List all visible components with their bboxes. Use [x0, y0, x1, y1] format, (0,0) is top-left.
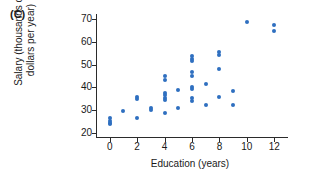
data-point [231, 89, 235, 93]
y-tick-label: 50 [66, 60, 92, 70]
y-tick-mark [92, 110, 96, 111]
x-tick-label: 8 [207, 142, 231, 152]
data-point [163, 111, 167, 115]
data-point [176, 88, 180, 92]
y-tick-label: 40 [66, 82, 92, 92]
x-tick-label: 10 [235, 142, 259, 152]
data-point [190, 74, 194, 78]
y-tick-mark [92, 19, 96, 20]
y-axis-label-line2: dollars per year) [25, 0, 37, 95]
data-point [272, 23, 276, 27]
data-point [135, 116, 139, 120]
data-point [245, 20, 249, 24]
data-point [190, 99, 194, 103]
y-tick-mark [92, 65, 96, 66]
data-point [217, 95, 221, 99]
x-tick-label: 6 [180, 142, 204, 152]
data-point [204, 82, 208, 86]
data-point [121, 109, 125, 113]
plot-area [96, 14, 288, 138]
data-point [163, 78, 167, 82]
x-tick-label: 2 [125, 142, 149, 152]
data-point [135, 97, 139, 101]
y-tick-mark [92, 87, 96, 88]
y-tick-label-group: 203040506070 [60, 14, 92, 138]
data-point [176, 106, 180, 110]
data-point [108, 122, 112, 126]
y-tick-label: 70 [66, 14, 92, 24]
data-point [231, 103, 235, 107]
data-point [149, 108, 153, 112]
data-point [190, 59, 194, 63]
data-point [217, 67, 221, 71]
y-tick-mark [92, 133, 96, 134]
data-point [190, 87, 194, 91]
x-tick-label: 4 [153, 142, 177, 152]
y-axis-label-line1: Salary (thousands of [13, 0, 25, 95]
y-axis-line [96, 14, 97, 138]
x-axis-label: Education (years) [90, 158, 290, 169]
y-tick-mark [92, 42, 96, 43]
data-point [217, 53, 221, 57]
y-tick-label: 20 [66, 128, 92, 138]
data-point [163, 98, 167, 102]
y-tick-label: 60 [66, 37, 92, 47]
y-tick-label: 30 [66, 105, 92, 115]
scatter-plot-figure: (C) Salary (thousands of dollars per yea… [0, 0, 309, 180]
x-tick-label: 0 [98, 142, 122, 152]
x-tick-label-group: 024681012 [96, 142, 296, 156]
x-tick-label: 12 [262, 142, 286, 152]
y-axis-label: Salary (thousands of dollars per year) [13, 0, 37, 95]
data-point [204, 103, 208, 107]
data-point [272, 29, 276, 33]
